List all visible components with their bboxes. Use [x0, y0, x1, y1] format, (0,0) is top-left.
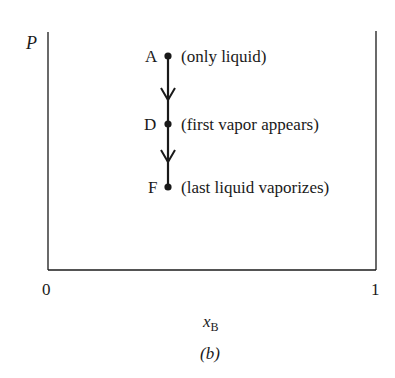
point-f-label: F: [148, 179, 157, 196]
point-a-label: A: [145, 48, 157, 65]
point-a-marker: [164, 52, 171, 59]
y-axis-label: P: [26, 34, 37, 52]
point-d-note: (first vapor appears): [181, 116, 319, 133]
x-tick-0: 0: [42, 281, 51, 298]
caption-text: (b): [200, 344, 220, 363]
x-axis-label: xB: [203, 313, 219, 330]
point-d-marker: [164, 120, 171, 127]
x-axis-label-subscript: B: [211, 320, 219, 334]
point-f-marker: [164, 183, 171, 190]
point-a-note: (only liquid): [181, 48, 266, 65]
point-f-note: (last liquid vaporizes): [181, 179, 329, 196]
x-axis-label-main: x: [203, 312, 211, 331]
point-d-label: D: [144, 116, 156, 133]
figure-caption: (b): [200, 345, 220, 362]
x-tick-1: 1: [371, 281, 380, 298]
